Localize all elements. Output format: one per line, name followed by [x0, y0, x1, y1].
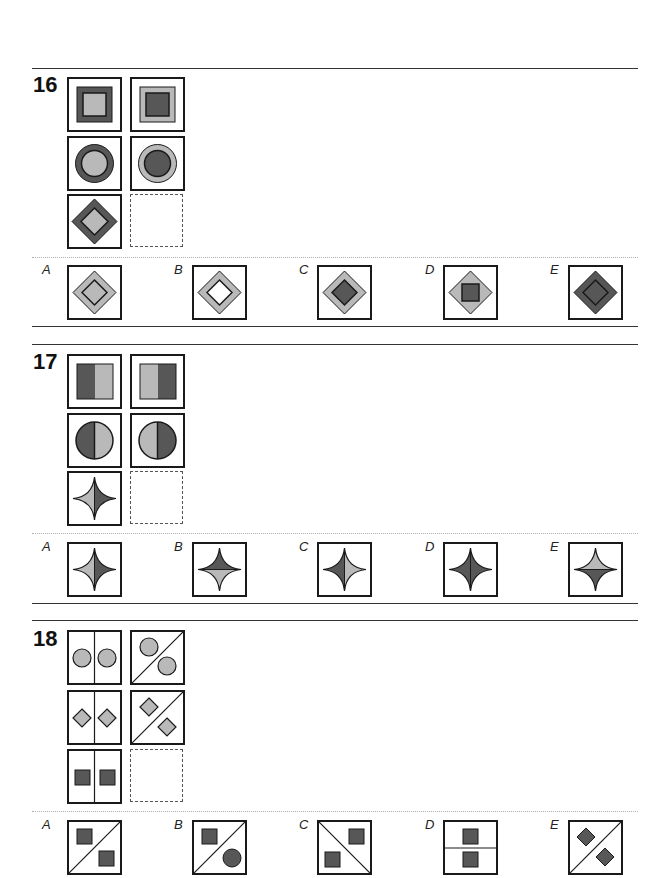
q17-grid-r2c1-split-circle-icon	[67, 413, 122, 468]
question-16-bottom-rule	[32, 326, 638, 327]
q18-grid-r1c2-circles-icon	[130, 630, 185, 685]
q17-option-c-label: C	[299, 539, 308, 554]
q17-option-c[interactable]	[317, 542, 372, 597]
q17-grid-missing-cell	[130, 471, 183, 524]
q16-grid-r1c2-square-icon	[130, 77, 185, 132]
question-18-number: 18	[33, 626, 57, 652]
q18-option-a[interactable]	[67, 820, 122, 875]
q18-option-c-label: C	[299, 817, 308, 832]
q16-grid-r3c1-diamond-icon	[67, 194, 122, 249]
q16-option-a[interactable]	[67, 265, 122, 320]
q18-option-d[interactable]	[443, 820, 498, 875]
q17-grid-r1c2-split-square-icon	[130, 354, 185, 409]
q18-option-a-label: A	[42, 817, 51, 832]
q16-option-e[interactable]	[568, 265, 623, 320]
q18-options-separator	[32, 811, 638, 812]
q17-option-e-label: E	[550, 539, 559, 554]
q17-grid-r1c1-split-square-icon	[67, 354, 122, 409]
q16-option-c-label: C	[299, 262, 308, 277]
q18-grid-r1c1-circles-icon	[67, 630, 122, 685]
q18-grid-r3c1-squares-icon	[67, 749, 122, 804]
q18-option-e[interactable]	[568, 820, 623, 875]
q17-option-a[interactable]	[67, 542, 122, 597]
q16-option-b-label: B	[174, 262, 183, 277]
q16-grid-r1c1-square-icon	[67, 77, 122, 132]
q18-option-b-label: B	[174, 817, 183, 832]
q17-option-b-label: B	[174, 539, 183, 554]
q17-grid-r2c2-split-circle-icon	[130, 413, 185, 468]
q17-option-b[interactable]	[192, 542, 247, 597]
q16-option-e-label: E	[550, 262, 559, 277]
q18-grid-missing-cell	[130, 749, 183, 802]
question-17-top-rule	[32, 344, 638, 345]
q16-options-separator	[32, 257, 638, 258]
question-16-number: 16	[33, 72, 57, 98]
q16-option-d-label: D	[425, 262, 434, 277]
q18-option-e-label: E	[550, 817, 559, 832]
q17-grid-r3c1-split-star-icon	[67, 471, 122, 526]
q16-grid-r2c1-circle-icon	[67, 136, 122, 191]
question-17-number: 17	[33, 349, 57, 375]
q18-grid-r2c2-diamonds-icon	[130, 690, 185, 745]
q16-grid-r2c2-circle-icon	[130, 136, 185, 191]
q16-option-a-label: A	[42, 262, 51, 277]
q16-option-b[interactable]	[192, 265, 247, 320]
q17-option-e[interactable]	[568, 542, 623, 597]
q17-options-separator	[32, 533, 638, 534]
q18-option-d-label: D	[425, 817, 434, 832]
q18-option-b[interactable]	[192, 820, 247, 875]
q18-option-c[interactable]	[317, 820, 372, 875]
q17-option-a-label: A	[42, 539, 51, 554]
q16-option-d[interactable]	[443, 265, 498, 320]
question-18-top-rule	[32, 620, 638, 621]
q17-option-d[interactable]	[443, 542, 498, 597]
q18-grid-r2c1-diamonds-icon	[67, 690, 122, 745]
q16-grid-missing-cell	[130, 194, 183, 247]
question-17-bottom-rule	[32, 603, 638, 604]
q17-option-d-label: D	[425, 539, 434, 554]
question-16-top-rule	[32, 68, 638, 69]
q16-option-c[interactable]	[317, 265, 372, 320]
